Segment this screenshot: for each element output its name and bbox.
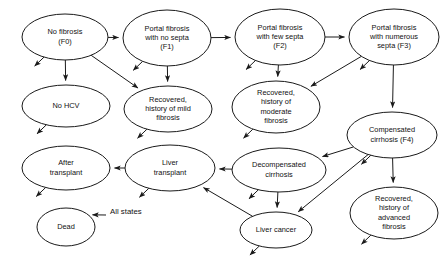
- node-label-line: septa (F3): [377, 41, 411, 50]
- node-label-line: with few septa: [256, 32, 305, 41]
- node-label-line: Liver cancer: [256, 225, 297, 234]
- death-stub-f2: [246, 60, 255, 69]
- edge-f3-to-f4: [393, 65, 394, 108]
- node-label-line: with numerous: [369, 32, 418, 41]
- node-f0[interactable]: No fibrosis(F0): [22, 14, 108, 60]
- edge-f2-to-recmod: [278, 65, 279, 77]
- node-label-line: (F2): [273, 41, 287, 50]
- edge-f4-to-recadv: [393, 158, 394, 183]
- node-label-line: fibrosis: [156, 113, 180, 122]
- death-stub-f1: [133, 61, 142, 70]
- node-label-line: history of: [261, 97, 292, 106]
- edge-f3-to-recmod: [311, 56, 362, 86]
- annotations-layer: All states: [92, 207, 141, 216]
- node-label-line: No fibrosis: [48, 27, 83, 36]
- nodes-layer: No fibrosis(F0)Portal fibrosiswith no se…: [22, 9, 439, 248]
- death-stub-recmild: [138, 129, 147, 138]
- node-aftertx[interactable]: Aftertransplant: [22, 146, 110, 190]
- death-stub-decomp: [249, 190, 258, 199]
- death-stub-aftertx: [36, 188, 45, 197]
- node-label-dead: Dead: [57, 222, 75, 231]
- edge-livercancer-to-livertx: [203, 188, 252, 217]
- death-stub-livertx: [139, 188, 148, 197]
- node-label-line: cirrhosis: [265, 170, 293, 179]
- node-label-nohcv: No HCV: [52, 101, 79, 110]
- node-label-line: history of: [379, 203, 410, 212]
- node-label-line: history of mild: [145, 104, 191, 113]
- node-label-line: After: [58, 158, 74, 167]
- node-label-line: Dead: [57, 222, 75, 231]
- node-label-line: Compensated: [369, 125, 415, 134]
- node-label-line: (F0): [58, 37, 72, 46]
- node-label-livercancer: Liver cancer: [256, 225, 297, 234]
- node-label-line: Liver: [162, 158, 179, 167]
- node-f3[interactable]: Portal fibrosiswith numeroussepta (F3): [349, 9, 439, 65]
- node-label-line: (F1): [160, 42, 174, 51]
- node-f2[interactable]: Portal fibrosiswith few septa(F2): [235, 9, 325, 65]
- node-label-f4: Compensatedcirrhosis (F4): [369, 125, 415, 143]
- node-livertx[interactable]: Livertransplant: [125, 145, 215, 191]
- node-label-line: transplant: [154, 168, 186, 177]
- node-livercancer[interactable]: Liver cancer: [240, 212, 312, 248]
- node-label-line: Portal fibrosis: [145, 24, 190, 33]
- node-label-line: fibrosis: [382, 222, 406, 231]
- node-label-line: cirrhosis (F4): [370, 135, 413, 144]
- state-transition-diagram: No fibrosis(F0)Portal fibrosiswith no se…: [0, 0, 447, 262]
- node-decomp[interactable]: Decompensatedcirrhosis: [232, 148, 326, 192]
- death-stub-f0: [35, 57, 44, 66]
- node-label-line: fibrosis: [264, 116, 288, 125]
- node-f1[interactable]: Portal fibrosiswith no septa(F1): [123, 10, 211, 66]
- node-dead[interactable]: Dead: [37, 208, 95, 246]
- death-stub-nohcv: [37, 125, 46, 134]
- node-recmild[interactable]: Recovered,history of mildfibrosis: [124, 86, 212, 132]
- node-label-line: Decompensated: [252, 160, 306, 169]
- node-label-line: Recovered,: [375, 194, 413, 203]
- death-stub-livercancer: [250, 246, 259, 255]
- death-stub-recadv: [362, 235, 371, 244]
- node-label-line: Portal fibrosis: [258, 23, 303, 32]
- node-label-line: Portal fibrosis: [372, 23, 417, 32]
- node-label-line: with no septa: [144, 33, 189, 42]
- annotation-all-states: All states: [110, 207, 142, 216]
- node-f4[interactable]: Compensatedcirrhosis (F4): [347, 112, 437, 158]
- node-label-line: moderate: [260, 107, 291, 116]
- node-label-line: No HCV: [52, 101, 79, 110]
- node-recadv[interactable]: Recovered,history ofadvancedfibrosis: [350, 187, 438, 239]
- death-stub-f3: [360, 60, 369, 69]
- node-nohcv[interactable]: No HCV: [22, 85, 110, 127]
- node-recmod[interactable]: Recovered,history ofmoderatefibrosis: [232, 81, 320, 133]
- death-stub-recmod: [244, 129, 253, 138]
- node-label-line: Recovered,: [149, 95, 187, 104]
- node-label-line: Recovered,: [257, 88, 295, 97]
- node-label-line: advanced: [378, 213, 410, 222]
- node-label-line: transplant: [50, 168, 82, 177]
- edge-f0-to-recmild: [91, 55, 138, 88]
- edges-layer: [65, 37, 393, 216]
- edge-decomp-to-livercancer: [277, 192, 278, 208]
- edge-f4-to-decomp: [322, 147, 353, 157]
